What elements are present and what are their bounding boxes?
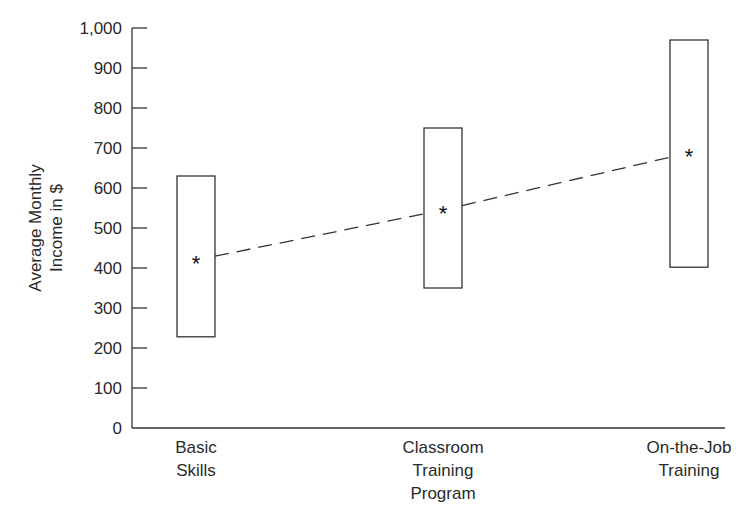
mean-star-icon: *	[439, 201, 448, 226]
trend-segment	[215, 214, 424, 256]
category-label: Training	[413, 461, 474, 480]
y-tick-label: 300	[94, 299, 122, 318]
y-axis-label-line: Income in $	[47, 184, 66, 272]
category-label: Program	[410, 484, 475, 503]
category-labels: BasicSkillsClassroomTrainingProgramOn-th…	[175, 438, 731, 503]
y-tick-label: 600	[94, 179, 122, 198]
y-tick-label: 500	[94, 219, 122, 238]
mean-star-icon: *	[685, 144, 694, 169]
category-label: On-the-Job	[646, 438, 731, 457]
y-axis: 01002003004005006007008009001,000	[79, 19, 147, 438]
y-tick-label: 0	[113, 419, 122, 438]
y-tick-label: 200	[94, 339, 122, 358]
y-tick-label: 700	[94, 139, 122, 158]
range-box: *	[670, 40, 708, 267]
y-tick-label: 900	[94, 59, 122, 78]
category-label: Classroom	[402, 438, 483, 457]
mean-star-icon: *	[192, 251, 201, 276]
y-axis-label-line: Average Monthly	[26, 164, 45, 292]
range-chart: Average MonthlyIncome in $ 0100200300400…	[0, 0, 752, 521]
trend-segment	[462, 157, 670, 205]
category-label: Training	[659, 461, 720, 480]
category-label: Basic	[175, 438, 217, 457]
y-tick-label: 800	[94, 99, 122, 118]
range-boxes: ***	[177, 40, 708, 337]
y-tick-label: 100	[94, 379, 122, 398]
y-tick-label: 400	[94, 259, 122, 278]
category-label: Skills	[176, 461, 216, 480]
range-box: *	[177, 176, 215, 337]
y-axis-label: Average MonthlyIncome in $	[26, 164, 66, 292]
range-box: *	[424, 128, 462, 288]
y-tick-label: 1,000	[79, 19, 122, 38]
